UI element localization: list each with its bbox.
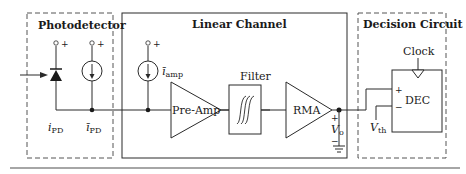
clock-label: Clock [403, 45, 435, 58]
preamp-label: Pre-Amp [172, 104, 220, 117]
photodiode-current-label: iPD [48, 121, 63, 135]
linear-channel-title: Linear Channel [192, 18, 287, 31]
filter-label: Filter [240, 70, 272, 83]
photodetector-box [27, 13, 113, 158]
vth-wire [376, 106, 392, 120]
photodetector-title: Photodetector [38, 19, 126, 32]
dec-minus: − [395, 102, 403, 112]
threshold-label: Vth [370, 121, 386, 135]
vo-plus: + [331, 113, 339, 123]
pd-noise-current-label: īPD [86, 121, 101, 135]
pd-noise-plus: + [97, 39, 105, 49]
receiver-block-diagram: Photodetector Linear Channel Decision Ci… [0, 0, 466, 174]
amp-noise-plus: + [153, 39, 161, 49]
pd-noise-current-source-icon [82, 41, 102, 113]
ground-icon [333, 146, 345, 152]
output-voltage-label: Vo [331, 123, 344, 137]
vo-minus: − [331, 136, 339, 146]
light-input-arrow-icon [20, 72, 48, 78]
decision-circuit-title: Decision Circuit [363, 18, 464, 31]
dec-input-wire [366, 89, 392, 110]
amp-noise-current-label: īamp [162, 65, 183, 79]
photodiode-plus: + [61, 39, 69, 49]
amp-noise-current-source-icon [138, 41, 158, 113]
dec-plus: + [395, 85, 403, 95]
rma-label: RMA [293, 104, 322, 117]
dec-label: DEC [405, 94, 430, 107]
